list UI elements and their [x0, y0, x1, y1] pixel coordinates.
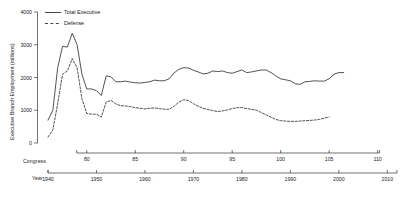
- y-axis: [34, 12, 38, 143]
- year-tick-label: 1950: [84, 176, 108, 182]
- congress-tick-label: 90: [174, 156, 194, 162]
- employment-line-chart: Executive Branch Employment (millions) C…: [0, 0, 410, 198]
- congress-tick-label: 105: [319, 156, 339, 162]
- congress-tick-label: 100: [271, 156, 291, 162]
- congress-tick-label: 85: [125, 156, 145, 162]
- plot-canvas: [0, 0, 410, 198]
- congress-tick-label: 80: [77, 156, 97, 162]
- year-tick-label: 1940: [36, 176, 60, 182]
- year-axis: [48, 170, 397, 173]
- series-line-total-executive: [48, 33, 344, 120]
- y-tick-label: 0: [6, 140, 32, 146]
- year-tick-label: 2010: [375, 176, 399, 182]
- legend-lines: [45, 13, 61, 24]
- series-line-defense: [48, 59, 329, 138]
- legend-item-defense: Defense: [64, 20, 84, 26]
- y-tick-label: 1000: [6, 107, 32, 113]
- year-tick-label: 2000: [327, 176, 351, 182]
- legend-item-total-executive: Total Executive: [64, 9, 100, 15]
- year-tick-label: 1960: [133, 176, 157, 182]
- year-tick-label: 1970: [181, 176, 205, 182]
- data-series-group: [48, 33, 344, 137]
- congress-axis: [77, 150, 380, 153]
- congress-tick-label: 110: [368, 156, 388, 162]
- year-tick-label: 1990: [278, 176, 302, 182]
- y-tick-label: 2000: [6, 75, 32, 81]
- y-tick-label: 4000: [6, 9, 32, 15]
- congress-tick-label: 95: [222, 156, 242, 162]
- y-tick-label: 3000: [6, 42, 32, 48]
- congress-axis-label: Congress: [23, 158, 46, 164]
- year-tick-label: 1980: [230, 176, 254, 182]
